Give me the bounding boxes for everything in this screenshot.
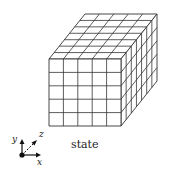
x-axis-label: x [37,157,42,167]
y-arrowhead-icon [20,139,25,144]
y-axis-label: y [12,134,17,144]
cube-front-face [49,59,121,126]
axis-indicator [19,139,41,158]
voxel-cube [49,14,157,126]
caption-state: state [71,138,99,151]
z-axis-label: z [39,129,44,139]
state-cube-diagram [0,0,172,178]
